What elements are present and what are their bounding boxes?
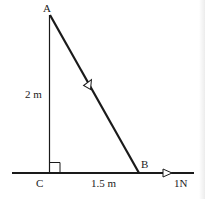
force-label: 1N [174, 178, 187, 189]
point-label-a: A [43, 3, 51, 14]
dimension-label-cb: 1.5 m [91, 178, 116, 189]
line-ab [50, 15, 139, 173]
point-label-c: C [36, 178, 43, 189]
page-edge-shadow [199, 0, 205, 199]
right-angle-marker [50, 163, 61, 174]
point-label-b: B [141, 159, 148, 170]
arrow-force-icon [163, 169, 172, 177]
dimension-label-ac: 2 m [25, 89, 42, 100]
